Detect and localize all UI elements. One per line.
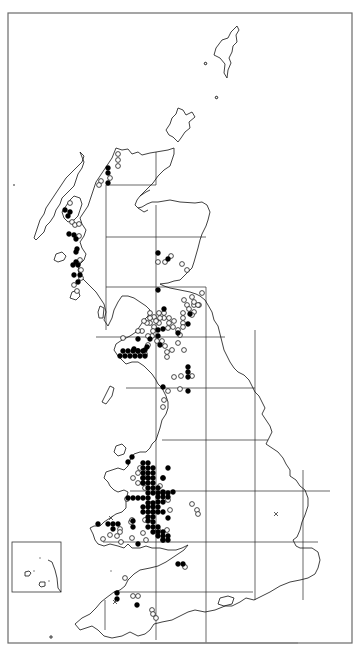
filled-circle-marker — [161, 500, 166, 505]
filled-circle-marker — [186, 322, 191, 327]
filled-circle-marker — [131, 525, 136, 530]
distribution-map — [0, 0, 361, 656]
filled-circle-marker — [171, 490, 176, 495]
open-circle-marker — [182, 348, 187, 353]
open-circle-marker — [190, 295, 195, 300]
open-circle-marker — [181, 311, 186, 316]
moray-firth — [138, 190, 150, 212]
filled-circle-marker — [146, 486, 151, 491]
open-circle-marker — [136, 471, 141, 476]
open-circle-marker — [131, 476, 136, 481]
open-circle-marker — [119, 540, 124, 545]
open-circle-marker — [172, 375, 177, 380]
filled-circle-marker — [146, 491, 151, 496]
open-circle-marker — [97, 183, 102, 188]
filled-circle-marker — [156, 288, 161, 293]
filled-circle-marker — [141, 349, 146, 354]
filled-circle-marker — [156, 486, 161, 491]
filled-circle-marker — [111, 522, 116, 527]
open-circle-marker — [136, 594, 141, 599]
filled-circle-marker — [151, 471, 156, 476]
filled-circle-marker — [162, 307, 167, 312]
filled-circle-marker — [156, 525, 161, 530]
open-circle-marker — [165, 350, 170, 355]
filled-circle-marker — [131, 349, 136, 354]
filled-circle-marker — [161, 510, 166, 515]
filled-circle-marker — [151, 466, 156, 471]
filled-circle-marker — [118, 354, 123, 359]
filled-circle-marker — [166, 538, 171, 543]
filled-circle-marker — [146, 466, 151, 471]
filled-circle-marker — [161, 538, 166, 543]
filled-circle-marker — [188, 312, 193, 317]
open-circle-marker — [166, 389, 171, 394]
open-circle-marker — [68, 201, 73, 206]
filled-circle-marker — [166, 466, 171, 471]
open-circle-marker — [179, 374, 184, 379]
filled-circle-marker — [72, 273, 77, 278]
filled-circle-marker — [68, 210, 73, 215]
filled-circle-marker — [186, 389, 191, 394]
filled-circle-marker — [78, 273, 83, 278]
inset-channel-islands — [12, 542, 61, 592]
open-circle-marker — [77, 222, 82, 227]
grid-lines — [96, 152, 330, 643]
open-circle-marker — [116, 164, 121, 169]
open-circle-marker — [181, 316, 186, 321]
filled-circle-marker — [141, 471, 146, 476]
open-circle-marker — [148, 311, 153, 316]
anglesey — [114, 444, 126, 456]
filled-circle-marker — [116, 522, 121, 527]
scilly — [50, 636, 52, 638]
filled-circle-marker — [146, 481, 151, 486]
isle-of-wight — [218, 596, 234, 606]
filled-circle-marker — [156, 534, 161, 539]
filled-circle-marker — [126, 349, 131, 354]
filled-circle-marker — [130, 455, 135, 460]
filled-circle-marker — [156, 495, 161, 500]
filled-circle-marker — [186, 375, 191, 380]
filled-circle-marker — [96, 522, 101, 527]
filled-circle-marker — [143, 354, 148, 359]
open-circle-marker — [163, 344, 168, 349]
open-circle-marker — [178, 387, 183, 392]
open-circle-marker — [171, 325, 176, 330]
open-circle-marker — [75, 289, 80, 294]
isle-of-man — [102, 386, 114, 404]
filled-circle-marker — [128, 354, 133, 359]
filled-circle-marker — [136, 542, 141, 547]
filled-circle-marker — [151, 520, 156, 525]
filled-circle-marker — [151, 476, 156, 481]
open-circle-marker — [157, 311, 162, 316]
filled-circle-marker — [141, 496, 146, 501]
filled-circle-marker — [156, 505, 161, 510]
offshore-speck — [110, 570, 112, 572]
filled-circle-marker — [166, 516, 171, 521]
open-circle-marker — [154, 319, 159, 324]
filled-circle-marker — [131, 519, 136, 524]
filled-circle-marker — [126, 496, 131, 501]
inset-island — [39, 582, 45, 587]
open-circle-marker — [115, 534, 120, 539]
filled-circle-marker — [146, 471, 151, 476]
filled-circle-marker — [63, 208, 68, 213]
open-circle-marker — [168, 508, 173, 513]
open-circle-marker — [136, 481, 141, 486]
open-circle-marker — [165, 355, 170, 360]
island — [215, 96, 218, 99]
open-circle-marker — [79, 268, 84, 273]
filled-circle-marker — [156, 334, 161, 339]
filled-circle-marker — [106, 166, 111, 171]
island — [204, 62, 207, 65]
open-circle-marker — [108, 176, 113, 181]
open-circle-marker — [121, 336, 126, 341]
filled-circle-marker — [121, 349, 126, 354]
filled-circle-marker — [141, 510, 146, 515]
open-circle-marker — [187, 307, 192, 312]
open-circle-marker — [185, 268, 190, 273]
open-circle-marker — [161, 405, 166, 410]
filled-circle-marker — [161, 495, 166, 500]
filled-circle-marker — [176, 331, 181, 336]
open-circle-marker — [180, 262, 185, 267]
inset-speck — [48, 580, 50, 582]
